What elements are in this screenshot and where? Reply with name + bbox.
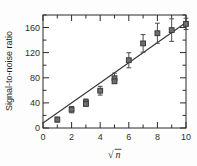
x-tick-label-8: 8 (155, 132, 160, 142)
x-tick-label-4: 4 (98, 132, 103, 142)
y-tick-label-0: 0 (35, 123, 40, 133)
x-axis-title-radical: √ (108, 149, 114, 160)
x-tick-label-10: 10 (181, 132, 191, 142)
scatter-plot: 160 120 80 40 0 0 2 4 6 8 10 √ n Signal-… (0, 0, 197, 166)
axis-frame (43, 15, 186, 128)
x-axis-title: √ n (108, 149, 122, 160)
y-tick-label-80: 80 (30, 73, 40, 83)
data-point (84, 102, 89, 107)
y-tick-label-160: 160 (25, 23, 40, 33)
y-tick-label-40: 40 (30, 98, 40, 108)
data-point (112, 79, 117, 84)
x-tick-label-6: 6 (126, 132, 131, 142)
x-tick-label-0: 0 (40, 132, 45, 142)
x-axis-title-variable: n (116, 149, 121, 160)
x-tick-label-2: 2 (69, 132, 74, 142)
y-tick-label-120: 120 (25, 48, 40, 58)
data-point (69, 107, 74, 113)
chart-figure: 160 120 80 40 0 0 2 4 6 8 10 √ n Signal-… (0, 0, 197, 166)
data-point (55, 117, 60, 122)
y-axis-title: Signal-to-noise ratio (4, 31, 14, 111)
